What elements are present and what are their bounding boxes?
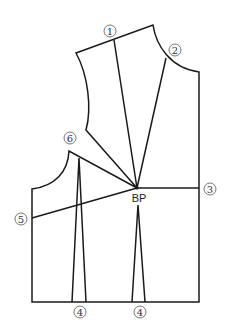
svg-text:1: 1 <box>107 26 113 37</box>
svg-text:4: 4 <box>137 307 143 318</box>
svg-text:5: 5 <box>18 214 24 225</box>
dart-line-5 <box>32 188 137 218</box>
label-4-right: 4 <box>134 306 146 318</box>
svg-text:2: 2 <box>172 45 178 56</box>
svg-text:4: 4 <box>77 307 83 318</box>
svg-text:6: 6 <box>67 133 73 144</box>
label-3: 3 <box>204 183 216 195</box>
waist-dart-right <box>132 205 145 302</box>
label-5: 5 <box>15 213 27 225</box>
bodice-pattern-diagram: 1 2 3 4 4 5 6 BP <box>0 0 235 335</box>
bp-point <box>135 186 138 189</box>
svg-text:3: 3 <box>207 184 213 195</box>
waist-dart-left <box>72 158 86 302</box>
pattern-outline <box>32 25 199 302</box>
label-2: 2 <box>169 44 181 56</box>
bp-label: BP <box>132 192 147 204</box>
label-1: 1 <box>104 25 116 37</box>
label-4-left: 4 <box>74 306 86 318</box>
label-6: 6 <box>64 132 76 144</box>
dart-line-2 <box>137 58 166 188</box>
